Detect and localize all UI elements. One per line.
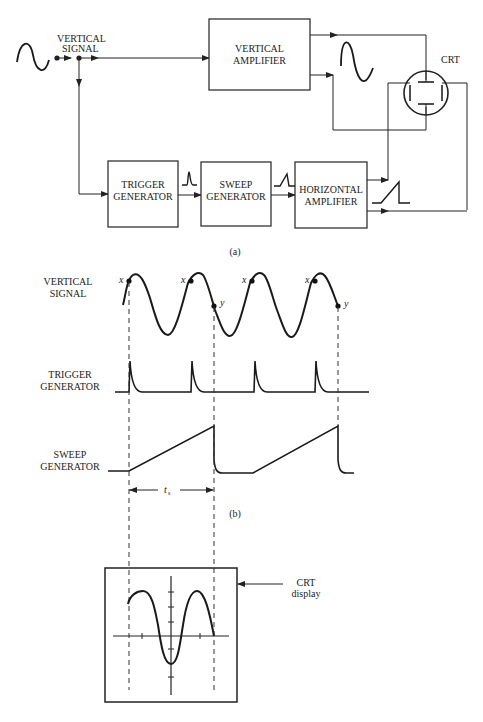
- point-y-2: y: [343, 298, 349, 309]
- sweep-generator-label2: GENERATOR: [206, 191, 266, 202]
- sweep-sawtooth: [108, 426, 354, 473]
- timing-diagram: VERTICAL SIGNAL x x y x x y TRIGGER GENE…: [40, 273, 369, 690]
- row-label-trigger-2: GENERATOR: [40, 381, 100, 392]
- trigger-pulse-icon: [182, 172, 197, 185]
- oscilloscope-diagram: VERTICAL SIGNAL VERTICAL AMPLIFIER: [0, 0, 483, 722]
- sweep-time-subscript: s: [168, 490, 171, 496]
- point-y-1: y: [219, 297, 225, 308]
- input-label-line2: SIGNAL: [62, 43, 99, 54]
- crt-label: CRT: [441, 54, 460, 65]
- vertical-amplifier-label1: VERTICAL: [235, 43, 284, 54]
- crt-display-label1: CRT: [297, 577, 316, 588]
- vertical-amplifier-label2: AMPLIFIER: [233, 55, 286, 66]
- point-x-1: x: [118, 274, 124, 285]
- point-x-3: x: [241, 274, 247, 285]
- sweep-ramp-small-icon: [274, 174, 295, 186]
- caption-a: (a): [229, 246, 240, 258]
- crt-display-label2: display: [292, 588, 321, 599]
- crt-symbol: [404, 71, 467, 115]
- trigger-generator-label1: TRIGGER: [121, 179, 165, 190]
- input-sine-icon: [17, 44, 49, 70]
- horizontal-amplifier-label1: HORIZONTAL: [299, 184, 363, 195]
- horizontal-amplifier-block: [295, 162, 367, 228]
- sweep-time-label: t: [164, 484, 167, 495]
- amplified-sine-icon: [341, 42, 373, 81]
- sweep-generator-label1: SWEEP: [220, 179, 253, 190]
- caption-b: (b): [229, 508, 241, 520]
- sweep-ramp-large-icon: [372, 182, 410, 203]
- row-label-vertical-2: SIGNAL: [50, 288, 87, 299]
- point-x-4: x: [304, 274, 310, 285]
- trigger-generator-label2: GENERATOR: [113, 191, 173, 202]
- row-label-sweep-2: GENERATOR: [40, 461, 100, 472]
- crt-display: CRT display: [105, 568, 320, 702]
- horizontal-amplifier-label2: AMPLIFIER: [305, 196, 358, 207]
- trigger-pulse-train: [115, 361, 369, 392]
- point-x-2: x: [180, 274, 186, 285]
- row-label-trigger-1: TRIGGER: [48, 369, 92, 380]
- row-label-sweep-1: SWEEP: [54, 449, 87, 460]
- row-label-vertical-1: VERTICAL: [44, 276, 93, 287]
- block-diagram: VERTICAL SIGNAL VERTICAL AMPLIFIER: [17, 19, 467, 258]
